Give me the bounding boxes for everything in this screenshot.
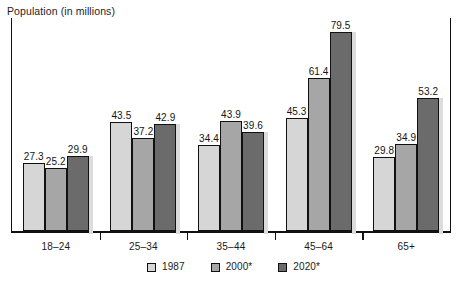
bar-value-label: 29.8: [374, 145, 394, 156]
chart-title: Population (in millions): [7, 5, 115, 18]
bar-wrap: 61.4: [308, 78, 330, 232]
chart-legend: 19872000*2020*: [0, 261, 467, 273]
bar-drop-shadow: [439, 98, 443, 234]
bar-value-label: 34.9: [396, 132, 416, 143]
bar-wrap: 25.2: [45, 168, 67, 231]
bar[interactable]: [330, 32, 352, 231]
bar[interactable]: [395, 144, 417, 231]
bar-group: 43.537.242.9: [110, 18, 176, 231]
bar[interactable]: [45, 168, 67, 231]
bar-wrap: 39.6: [242, 132, 264, 231]
category-label: 45–64: [304, 240, 333, 253]
bar[interactable]: [110, 122, 132, 231]
bar-wrap: 37.2: [132, 138, 154, 231]
bar[interactable]: [373, 157, 395, 232]
bar-value-label: 27.3: [24, 151, 44, 162]
legend-item[interactable]: 1987: [147, 261, 185, 273]
bar[interactable]: [417, 98, 439, 231]
x-axis-line: [11, 231, 451, 233]
bar-group: 45.361.479.5: [286, 18, 352, 231]
legend-swatch-icon: [147, 263, 156, 272]
bar[interactable]: [67, 156, 89, 231]
bar-wrap: 45.3: [286, 118, 308, 231]
bar-value-label: 42.9: [155, 112, 175, 123]
bar-wrap: 53.2: [417, 98, 439, 231]
bar-drop-shadow: [352, 32, 356, 234]
y-axis-line: [11, 18, 12, 232]
bar-value-label: 53.2: [418, 86, 438, 97]
axis-tick: [275, 233, 276, 240]
bar-value-label: 45.3: [287, 106, 307, 117]
bar[interactable]: [23, 163, 45, 231]
bar-wrap: 43.9: [220, 121, 242, 231]
bar-drop-shadow: [264, 132, 268, 234]
bar-value-label: 39.6: [243, 120, 263, 131]
bar-group: 34.443.939.6: [198, 18, 264, 231]
bar[interactable]: [286, 118, 308, 231]
bar-wrap: 27.3: [23, 163, 45, 231]
axis-tick: [187, 233, 188, 240]
legend-item[interactable]: 2020*: [278, 261, 320, 273]
bar-drop-shadow: [89, 156, 93, 234]
bar-drop-shadow: [176, 124, 180, 234]
axis-tick: [100, 233, 101, 240]
category-label: 65+: [397, 240, 415, 253]
bar-value-label: 61.4: [309, 66, 329, 77]
bar-value-label: 43.9: [221, 109, 241, 120]
bar-value-label: 34.4: [199, 133, 219, 144]
category-label: 35–44: [217, 240, 246, 253]
bar-value-label: 43.5: [111, 110, 131, 121]
legend-label: 2000*: [226, 261, 253, 273]
category-label: 18–24: [41, 240, 70, 253]
bar-value-label: 79.5: [331, 20, 351, 31]
plot-right-border: [450, 18, 451, 232]
bar-wrap: 29.9: [67, 156, 89, 231]
bar-wrap: 29.8: [373, 157, 395, 232]
bar-value-label: 29.9: [68, 144, 88, 155]
category-label: 25–34: [129, 240, 158, 253]
bar[interactable]: [132, 138, 154, 231]
bar-wrap: 34.9: [395, 144, 417, 231]
bar-wrap: 79.5: [330, 32, 352, 231]
bar-chart: Population (in millions) 27.325.229.943.…: [0, 0, 467, 283]
legend-swatch-icon: [211, 263, 220, 272]
legend-label: 1987: [162, 261, 185, 273]
bar-wrap: 42.9: [154, 124, 176, 231]
bar[interactable]: [308, 78, 330, 232]
bar[interactable]: [242, 132, 264, 231]
bar-group: 27.325.229.9: [23, 18, 89, 231]
axis-tick: [362, 233, 363, 240]
bar[interactable]: [154, 124, 176, 231]
legend-swatch-icon: [278, 263, 287, 272]
bar[interactable]: [220, 121, 242, 231]
bar-group: 29.834.953.2: [373, 18, 439, 231]
legend-label: 2020*: [293, 261, 320, 273]
bar-value-label: 25.2: [46, 156, 66, 167]
bar-wrap: 43.5: [110, 122, 132, 231]
bar-wrap: 34.4: [198, 145, 220, 231]
legend-item[interactable]: 2000*: [211, 261, 253, 273]
bar[interactable]: [198, 145, 220, 231]
bar-value-label: 37.2: [133, 126, 153, 137]
